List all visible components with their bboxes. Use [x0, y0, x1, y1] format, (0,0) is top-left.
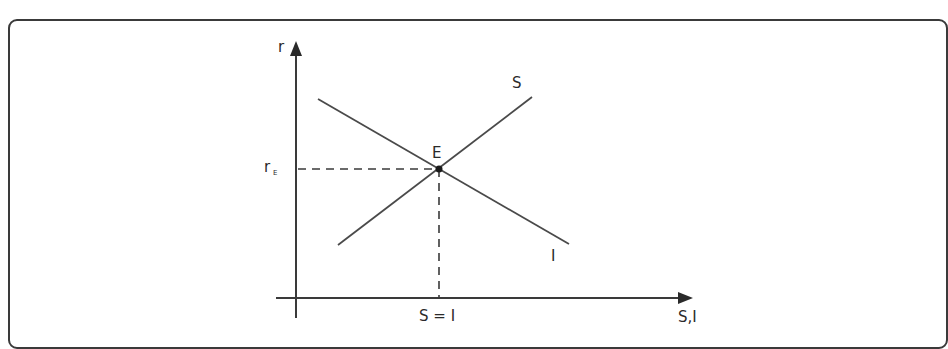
equilibrium-rate-label: r E	[264, 158, 277, 177]
y-axis: r	[278, 38, 302, 318]
equilibrium-guides	[298, 169, 439, 298]
equilibrium-quantity-label: S = I	[419, 307, 455, 325]
y-axis-arrow-icon	[290, 41, 302, 56]
x-axis-label: S,I	[678, 308, 697, 326]
investment-curve-label: I	[551, 247, 555, 265]
y-axis-label: r	[278, 38, 285, 56]
equilibrium-point: E	[432, 144, 443, 173]
equilibrium-dot-icon	[436, 166, 443, 173]
x-axis: S,I	[276, 292, 697, 326]
rate-label-subscript: E	[273, 169, 277, 177]
saving-curve-label: S	[512, 74, 522, 92]
equilibrium-label: E	[432, 144, 441, 162]
rate-label-main: r	[264, 158, 271, 176]
investment-curve: I	[318, 99, 569, 265]
x-axis-arrow-icon	[678, 292, 693, 304]
